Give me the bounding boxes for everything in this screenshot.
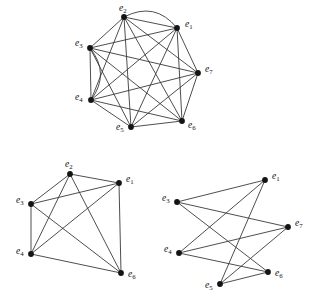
vertex-label-e3: e3 [16,195,24,206]
edge-e6-e7 [182,73,198,121]
vertex-e6 [179,118,185,124]
bottom-left-graph-edges [31,174,121,273]
vertex-label-e1: e1 [185,19,193,30]
edge-e1-e3 [90,28,177,48]
vertex-e7 [195,70,201,76]
vertex-e2 [67,171,73,177]
vertex-e5 [128,124,134,130]
edge-e4-e6 [31,254,121,273]
edge-e4-e5 [91,100,131,127]
edge-e3-e6 [31,204,121,273]
vertex-label-e3: e3 [162,193,170,204]
vertex-label-e4: e4 [16,246,24,257]
vertex-label-e7: e7 [205,64,213,75]
vertex-e6 [118,270,124,276]
bottom-right-graph-edges [177,180,288,284]
graph-figure: e1e2e3e4e5e6e7e1e2e3e4e6e1e3e4e5e6e7 [0,0,323,306]
bottom-right-graph: e1e3e4e5e6e7 [162,171,303,291]
edge-e1-e2 [124,11,177,28]
vertex-e3 [174,199,180,205]
edge-e1-e6 [177,28,182,121]
edge-e2-e6 [124,17,182,121]
edge-e1-e6 [119,183,121,273]
edge-e1-e7 [177,28,198,73]
vertex-label-e4: e4 [164,244,172,255]
graph-canvas: e1e2e3e4e5e6e7e1e2e3e4e6e1e3e4e5e6e7 [0,0,323,306]
edge-e4-e6 [179,253,268,272]
vertex-e5 [217,281,223,287]
vertex-label-e6: e6 [128,269,136,280]
vertex-label-e6: e6 [188,120,196,131]
edge-e5-e6 [131,121,182,127]
vertex-e3 [28,201,34,207]
edge-e3-e4 [90,48,101,100]
edge-e5-e1 [220,180,265,284]
vertex-e3 [87,45,93,51]
vertex-e2 [121,14,127,20]
vertex-e6 [265,269,271,275]
vertex-e4 [28,251,34,257]
edge-e1-e5 [131,28,177,127]
vertex-e7 [285,224,291,230]
vertex-label-e1: e1 [272,171,280,182]
edge-e2-e4 [31,174,70,254]
vertex-label-e6: e6 [275,268,283,279]
top-graph-edges [90,11,198,127]
vertex-e1 [174,25,180,31]
vertex-label-e7: e7 [295,218,303,229]
vertex-label-e4: e4 [75,92,83,103]
bottom-left-graph: e1e2e3e4e6 [16,159,136,280]
vertex-e4 [88,97,94,103]
vertex-label-e2: e2 [119,3,127,14]
vertex-label-e2: e2 [65,159,73,170]
edge-e4-e7 [179,227,288,253]
edge-e2-e3 [90,17,124,48]
edge-e3-e4 [90,48,91,100]
vertex-label-e5: e5 [205,280,213,291]
vertex-label-e3: e3 [75,38,83,49]
vertex-e1 [262,177,268,183]
top-graph: e1e2e3e4e5e6e7 [75,3,213,133]
vertex-label-e1: e1 [126,174,134,185]
vertex-e1 [116,180,122,186]
vertex-label-e5: e5 [116,122,124,133]
vertex-e4 [176,250,182,256]
edge-e2-e1 [70,174,119,183]
